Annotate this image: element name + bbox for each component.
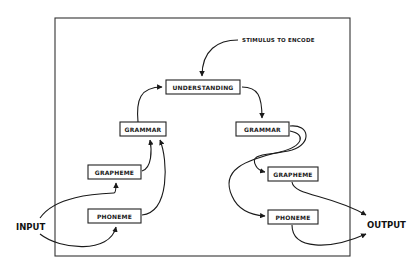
node-understanding: UNDERSTANDING <box>166 80 240 94</box>
arrow-phoneme-to-grammar <box>142 140 165 215</box>
stimulus-label: STIMULUS TO ENCODE <box>242 37 315 43</box>
arrow-phoneme-to-output <box>292 225 366 245</box>
node-grapheme-right-label: GRAPHEME <box>273 171 312 178</box>
output-label: OUTPUT <box>367 220 406 230</box>
node-phoneme-left: PHONEME <box>88 209 141 223</box>
arrow-understanding-to-grammar <box>242 87 262 118</box>
node-grapheme-right: GRAPHEME <box>268 167 318 181</box>
node-phoneme-right: PHONEME <box>268 210 318 224</box>
node-grammar-right: GRAMMAR <box>236 122 289 136</box>
arrow-grammar-to-understanding <box>138 87 162 122</box>
node-understanding-label: UNDERSTANDING <box>173 84 234 91</box>
language-processing-diagram: STIMULUS TO ENCODE UNDERSTANDING GRAMMAR… <box>0 0 417 270</box>
arrow-grapheme-to-grammar <box>142 140 151 171</box>
node-grapheme-left: GRAPHEME <box>88 165 141 179</box>
node-phoneme-left-label: PHONEME <box>97 213 132 220</box>
stimulus-arrow <box>202 40 238 76</box>
node-phoneme-right-label: PHONEME <box>275 214 310 221</box>
node-grammar-left: GRAMMAR <box>120 122 166 136</box>
input-label: INPUT <box>16 222 45 232</box>
node-grammar-right-label: GRAMMAR <box>244 126 281 133</box>
node-grapheme-left-label: GRAPHEME <box>95 169 134 176</box>
node-grammar-left-label: GRAMMAR <box>125 126 162 133</box>
arrow-input-to-phoneme <box>40 227 116 247</box>
